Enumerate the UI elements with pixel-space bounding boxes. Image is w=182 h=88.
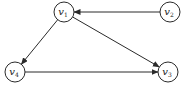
edge-v1-to-v3 (73, 17, 160, 67)
node-v3: v3 (158, 62, 178, 82)
node-v1: v1 (54, 2, 74, 22)
edges-group (21, 12, 160, 72)
node-v4: v4 (5, 62, 25, 82)
graph-canvas: v1v2v3v4 (0, 0, 182, 88)
edge-v1-to-v4 (21, 20, 57, 65)
node-v2: v2 (160, 2, 180, 22)
nodes-group: v1v2v3v4 (5, 2, 180, 82)
